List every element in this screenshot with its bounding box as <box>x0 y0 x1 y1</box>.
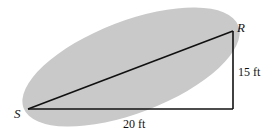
height-length-label: 15 ft <box>238 65 261 79</box>
vertex-label-r: R <box>236 20 245 35</box>
right-triangle-diagram: R S 15 ft 20 ft <box>0 0 277 134</box>
shaded-ellipse <box>7 0 255 134</box>
vertex-label-s: S <box>14 106 21 121</box>
base-length-label: 20 ft <box>123 117 146 131</box>
